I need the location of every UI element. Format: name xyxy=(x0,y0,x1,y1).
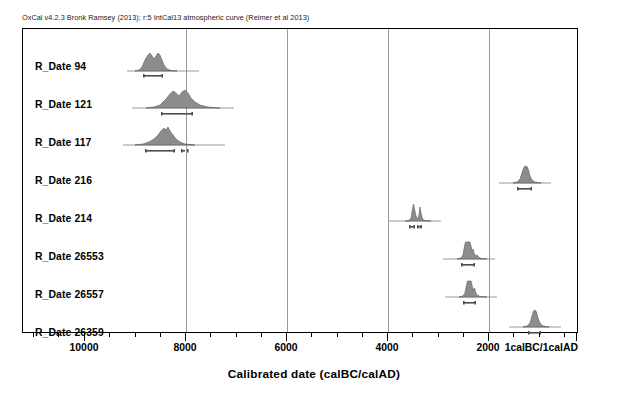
oxcal-multiplot-figure: OxCal v4.2.3 Bronk Ramsey (2013); r:5 In… xyxy=(0,0,628,393)
x-tick-minor xyxy=(362,333,363,337)
distribution-r-date-121 xyxy=(128,83,238,119)
x-tick-label-10000: 10000 xyxy=(70,342,99,353)
x-tick-minor xyxy=(311,333,312,337)
x-tick-minor xyxy=(539,333,540,337)
x-tick-label-2000: 2000 xyxy=(476,342,499,353)
x-tick-major-4000 xyxy=(387,333,388,341)
row-label-r-date-94: R_Date 94 xyxy=(35,61,86,72)
x-tick-major-1calbc xyxy=(576,333,577,341)
x-tick-minor xyxy=(58,333,59,337)
x-tick-minor xyxy=(564,333,565,337)
x-tick-major-6000 xyxy=(286,333,287,341)
gridline-4000 xyxy=(388,29,389,332)
row-label-r-date-26553: R_Date 26553 xyxy=(35,251,104,262)
x-axis: 10000 8000 6000 4000 2000 1calBC/1calAD xyxy=(22,333,578,363)
distribution-r-date-216 xyxy=(495,157,555,195)
x-tick-minor xyxy=(160,333,161,337)
row-label-r-date-121: R_Date 121 xyxy=(35,99,92,110)
distribution-r-date-26553 xyxy=(439,233,499,271)
row-label-r-date-214: R_Date 214 xyxy=(35,213,92,224)
x-tick-minor xyxy=(109,333,110,337)
x-tick-label-6000: 6000 xyxy=(274,342,297,353)
x-tick-minor xyxy=(33,333,34,337)
distribution-r-date-117 xyxy=(119,119,229,157)
row-label-r-date-216: R_Date 216 xyxy=(35,175,92,186)
x-tick-minor xyxy=(236,333,237,337)
x-tick-major-2000 xyxy=(488,333,489,341)
distribution-r-date-26557 xyxy=(441,271,501,309)
row-label-r-date-26557: R_Date 26557 xyxy=(35,289,104,300)
x-tick-minor xyxy=(337,333,338,337)
x-tick-label-4000: 4000 xyxy=(375,342,398,353)
x-tick-major-8000 xyxy=(185,333,186,341)
figure-caption: OxCal v4.2.3 Bronk Ramsey (2013); r:5 In… xyxy=(22,13,309,22)
x-tick-minor xyxy=(412,333,413,337)
plot-frame: R_Date 94 R_Date 121 R_Date 117 xyxy=(22,28,578,333)
x-tick-minor xyxy=(438,333,439,337)
x-tick-major-10000 xyxy=(84,333,85,341)
x-tick-minor xyxy=(463,333,464,337)
gridline-6000 xyxy=(287,29,288,332)
x-tick-label-8000: 8000 xyxy=(173,342,196,353)
x-tick-minor xyxy=(513,333,514,337)
x-tick-label-1calbc-1calad: 1calBC/1calAD xyxy=(505,342,578,353)
x-axis-title: Calibrated date (calBC/calAD) xyxy=(0,367,628,381)
row-label-r-date-117: R_Date 117 xyxy=(35,137,91,148)
distribution-r-date-214 xyxy=(385,195,445,233)
x-tick-minor xyxy=(210,333,211,337)
x-tick-minor xyxy=(135,333,136,337)
distribution-r-date-94 xyxy=(123,47,203,81)
x-tick-minor xyxy=(261,333,262,337)
